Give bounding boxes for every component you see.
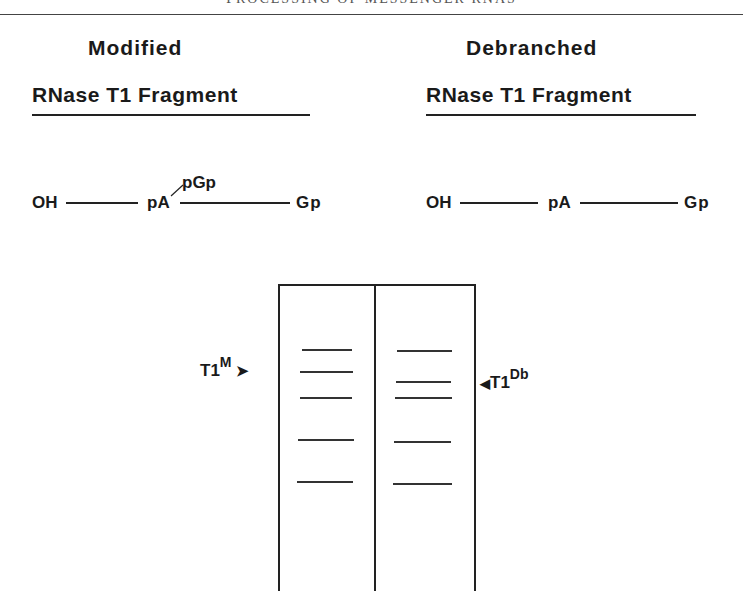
modified-seq-gp: Gp (296, 193, 322, 213)
band-debranched-2 (396, 381, 451, 383)
band-debranched-4 (394, 441, 451, 443)
gel-lane-divider (374, 284, 376, 591)
gel-left-edge (278, 284, 280, 591)
band-debranched-5 (393, 483, 452, 485)
band-modified-2 (300, 371, 353, 373)
gel-top-edge (278, 284, 476, 286)
band-debranched-1 (397, 350, 452, 352)
debranched-title: Debranched (466, 36, 597, 60)
debranched-seq-line-2 (580, 202, 678, 204)
debranched-underline (426, 114, 696, 116)
marker-t1db-label: T1 (490, 373, 510, 392)
arrow-left-icon: ◀ (480, 376, 490, 391)
debranched-seq-oh: OH (426, 193, 452, 213)
running-head: PROCESSING OF MESSENGER RNAS (0, 0, 743, 7)
header-rule (0, 14, 743, 15)
modified-underline (32, 114, 310, 116)
marker-t1db-superscript: Db (510, 366, 529, 382)
modified-seq-branch: pGp (182, 173, 216, 193)
marker-t1m-superscript: M (220, 354, 232, 370)
marker-t1m-label: T1 (200, 361, 220, 380)
modified-seq-oh: OH (32, 193, 58, 213)
band-modified-4 (298, 439, 354, 441)
marker-t1db: ◀T1Db (480, 373, 529, 393)
debranched-seq-pa: pA (548, 193, 571, 213)
debranched-subtitle: RNase T1 Fragment (426, 83, 632, 107)
marker-t1m: T1M ➤ (200, 361, 249, 381)
band-modified-3 (300, 397, 352, 399)
debranched-seq-gp: Gp (684, 193, 710, 213)
modified-subtitle: RNase T1 Fragment (32, 83, 238, 107)
band-modified-5 (297, 481, 353, 483)
arrow-right-icon: ➤ (236, 362, 249, 379)
modified-title: Modified (88, 36, 182, 60)
band-modified-1 (302, 349, 352, 351)
modified-seq-pa: pA (147, 193, 170, 213)
band-debranched-3 (395, 397, 452, 399)
debranched-seq-line-1 (460, 202, 538, 204)
modified-seq-line-2 (180, 202, 290, 204)
modified-seq-line-1 (66, 202, 138, 204)
gel-right-edge (474, 284, 476, 591)
